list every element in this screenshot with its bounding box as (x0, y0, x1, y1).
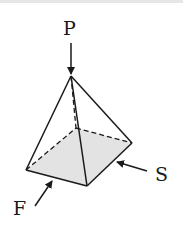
pyramid-diagram: P F S (0, 0, 183, 239)
label-p: P (63, 19, 76, 38)
arrow-f (35, 181, 52, 206)
label-s: S (155, 165, 168, 184)
label-f: F (13, 199, 26, 218)
pyramid-figure (0, 0, 183, 239)
arrow-s (117, 162, 147, 171)
